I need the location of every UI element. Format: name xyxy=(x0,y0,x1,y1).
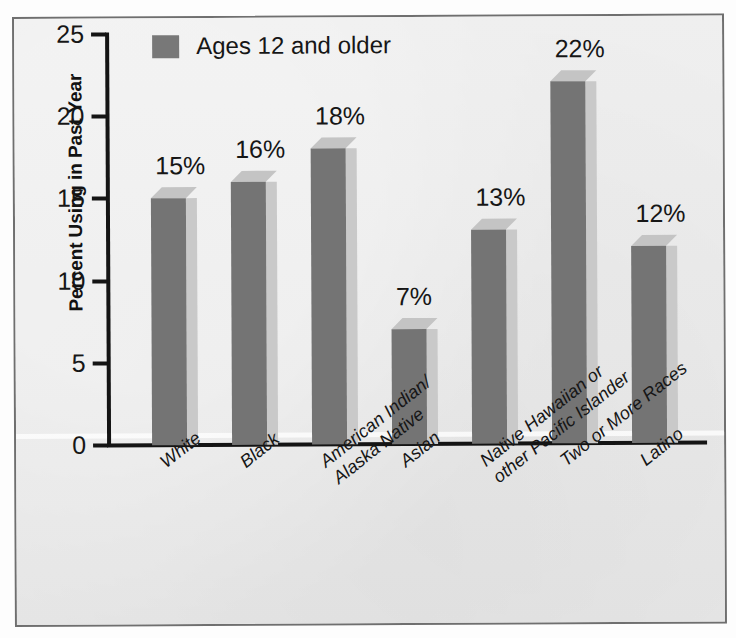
bar-value-label-3: 7% xyxy=(396,284,432,309)
bar-side-face xyxy=(666,245,678,442)
y-tick-label-25: 25 xyxy=(38,22,84,47)
bar-4 xyxy=(471,230,507,444)
chart-screenshot: Percent Using in Past Year 0510152025 Ag… xyxy=(0,0,736,638)
bar-top-face xyxy=(550,70,596,81)
bar-1 xyxy=(231,182,267,445)
bar-group: 15%16%18%7%13%22%12% xyxy=(12,14,724,17)
y-tick-label-0: 0 xyxy=(40,433,86,458)
legend-swatch-icon xyxy=(152,35,179,58)
bar-value-label-6: 12% xyxy=(635,200,685,225)
bar-value-label-5: 22% xyxy=(555,36,605,61)
y-tick-20 xyxy=(91,115,106,119)
bar-top-face xyxy=(631,234,677,245)
y-tick-5 xyxy=(93,361,108,365)
plot-area: Percent Using in Past Year 0510152025 Ag… xyxy=(12,14,727,627)
y-axis-ticks: 0510152025 xyxy=(12,14,724,17)
bar-top-face xyxy=(231,171,277,182)
bar-2 xyxy=(311,148,347,444)
bar-front-face xyxy=(231,182,267,445)
bar-front-face xyxy=(151,199,187,446)
y-tick-15 xyxy=(92,197,107,201)
bar-value-label-4: 13% xyxy=(475,185,525,210)
bar-side-face xyxy=(186,199,198,446)
bar-value-label-0: 15% xyxy=(155,153,205,178)
bar-value-label-2: 18% xyxy=(315,103,365,128)
legend: Ages 12 and older xyxy=(152,33,391,58)
bar-side-face xyxy=(346,148,358,444)
bar-side-face xyxy=(266,182,278,445)
bar-top-face xyxy=(151,188,197,199)
y-tick-0 xyxy=(93,444,108,448)
bar-top-face xyxy=(311,137,357,148)
y-tick-label-15: 15 xyxy=(39,186,85,211)
bar-front-face xyxy=(311,148,347,444)
bar-side-face xyxy=(506,230,518,444)
y-tick-25 xyxy=(91,33,106,37)
bar-top-face xyxy=(392,318,438,329)
y-tick-label-5: 5 xyxy=(40,350,86,375)
y-axis-line xyxy=(105,33,111,447)
bar-top-face xyxy=(471,219,517,230)
x-axis-labels: WhiteBlackAmerican Indian/Alaska NativeA… xyxy=(12,14,724,17)
cropped-heading-text xyxy=(0,0,736,13)
y-tick-label-10: 10 xyxy=(39,268,85,293)
y-tick-10 xyxy=(92,279,107,283)
y-tick-label-20: 20 xyxy=(38,104,84,129)
bar-0 xyxy=(151,199,187,446)
bar-value-label-1: 16% xyxy=(235,137,285,162)
legend-label: Ages 12 and older xyxy=(196,33,391,58)
bar-front-face xyxy=(471,230,507,444)
